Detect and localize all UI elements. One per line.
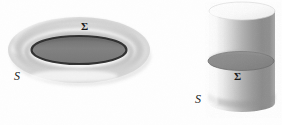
cylinder-surface-label: S (195, 92, 201, 107)
figure-illustration (0, 0, 282, 125)
torus-sigma-label: Σ (81, 20, 88, 32)
page-grain (0, 0, 282, 125)
cylinder-sigma-label: Σ (234, 70, 241, 82)
figure-canvas: Σ S Σ S (0, 0, 282, 125)
torus-surface-label: S (14, 69, 20, 84)
